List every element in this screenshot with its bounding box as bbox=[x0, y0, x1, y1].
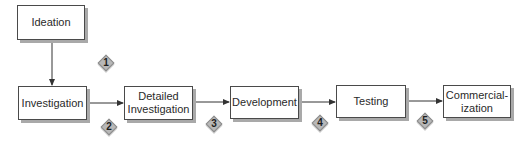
gate-3-diamond-icon: 3 bbox=[205, 115, 223, 133]
stage-gate-diagram: Ideation Investigation Detailed Investig… bbox=[0, 0, 529, 147]
gate-number: 3 bbox=[205, 115, 223, 133]
stage-testing: Testing bbox=[336, 85, 406, 118]
stage-label: Testing bbox=[354, 95, 389, 108]
stage-label: Development bbox=[232, 96, 297, 109]
gate-4-diamond-icon: 4 bbox=[311, 114, 329, 132]
gate-2-diamond-icon: 2 bbox=[100, 118, 118, 136]
gate-number: 1 bbox=[97, 54, 115, 72]
stage-label: Investigation bbox=[22, 97, 84, 110]
stage-label: Detailed Investigation bbox=[128, 90, 190, 116]
gate-number: 5 bbox=[416, 112, 434, 130]
stage-label: Commercial- ization bbox=[446, 89, 508, 115]
stage-investigation: Investigation bbox=[18, 86, 87, 120]
stage-detailed-investigation: Detailed Investigation bbox=[124, 86, 193, 120]
stage-label: Ideation bbox=[31, 16, 70, 29]
gate-1-diamond-icon: 1 bbox=[97, 54, 115, 72]
stage-commercialization: Commercial- ization bbox=[443, 85, 511, 118]
gate-number: 2 bbox=[100, 118, 118, 136]
gate-number: 4 bbox=[311, 114, 329, 132]
stage-ideation: Ideation bbox=[17, 5, 85, 40]
gate-5-diamond-icon: 5 bbox=[416, 112, 434, 130]
stage-development: Development bbox=[230, 86, 299, 119]
